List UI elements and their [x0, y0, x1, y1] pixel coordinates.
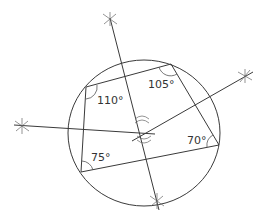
bisector-line-2 — [14, 125, 155, 134]
construction-mark-right — [238, 69, 252, 83]
angle-label-a: 110° — [97, 94, 124, 107]
angle-arc-c — [207, 135, 213, 147]
angle-label-c: 70° — [187, 134, 207, 147]
construction-diagram: 110° 105° 70° 75° — [0, 0, 262, 220]
construction-mark-bottom — [150, 193, 164, 209]
angle-label-d: 75° — [91, 151, 111, 164]
construction-mark-center-upper — [135, 116, 149, 123]
angle-arc-a — [86, 85, 97, 99]
bisector-line-1 — [110, 18, 159, 210]
angle-arc-b — [159, 67, 177, 76]
construction-mark-top — [103, 12, 117, 26]
angle-label-b: 105° — [148, 78, 175, 91]
